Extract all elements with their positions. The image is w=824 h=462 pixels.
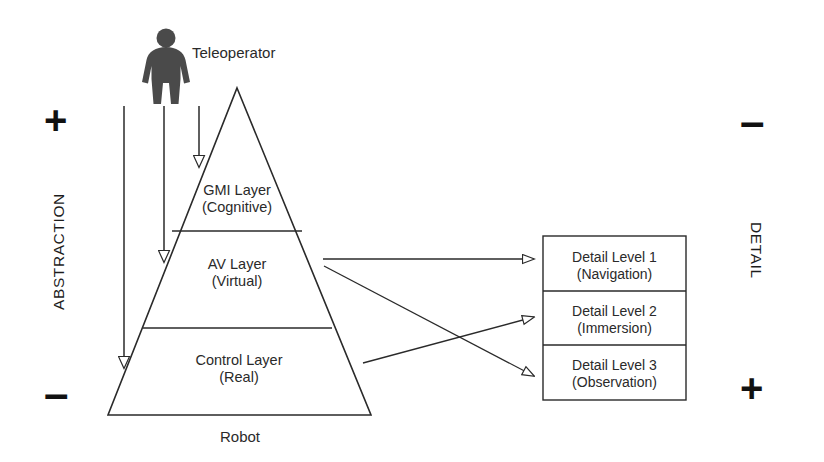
detail-level-2-cell: Detail Level 2 (Immersion): [544, 303, 685, 336]
detail-level-1-cell: Detail Level 1 (Navigation): [544, 249, 685, 282]
detail-level-3-cell: Detail Level 3 (Observation): [544, 357, 685, 390]
abstraction-axis-label: ABSTRACTION: [50, 193, 68, 310]
pyramid-layer-gmi-name: GMI Layer: [177, 182, 297, 199]
teleoperator-figure-icon: [142, 29, 190, 105]
detail-axis-plus-sign: +: [740, 368, 763, 408]
pyramid-layer-av-qualifier: (Virtual): [177, 273, 297, 290]
pyramid-layer-gmi: GMI Layer (Cognitive): [177, 182, 297, 216]
pyramid-layer-av: AV Layer (Virtual): [177, 256, 297, 290]
pyramid-layer-av-name: AV Layer: [177, 256, 297, 273]
detail-level-1-name: Detail Level 1: [544, 249, 685, 266]
arrow-av-layer-to-detail-level-3: [324, 266, 534, 376]
pyramid-layer-gmi-qualifier: (Cognitive): [177, 199, 297, 216]
diagram-vector-layer: [0, 0, 824, 462]
pyramid-layer-control-qualifier: (Real): [172, 369, 306, 386]
detail-axis-label: DETAIL: [747, 222, 765, 279]
pyramid-layer-control: Control Layer (Real): [172, 352, 306, 386]
detail-level-1-qualifier: (Navigation): [544, 266, 685, 283]
detail-level-3-name: Detail Level 3: [544, 357, 685, 374]
detail-level-3-qualifier: (Observation): [544, 374, 685, 391]
detail-mapping-arrows: [323, 259, 534, 376]
detail-axis-minus-sign: –: [740, 100, 764, 144]
arrow-control-layer-to-detail-level-2: [363, 317, 534, 363]
diagram-canvas: Teleoperator Robot GMI Layer (Cognitive)…: [0, 0, 824, 462]
detail-level-2-name: Detail Level 2: [544, 303, 685, 320]
abstraction-axis-plus-sign: +: [44, 100, 67, 140]
detail-level-2-qualifier: (Immersion): [544, 320, 685, 337]
robot-label: Robot: [205, 428, 275, 446]
teleoperator-label: Teleoperator: [192, 44, 275, 62]
pyramid-layer-control-name: Control Layer: [172, 352, 306, 369]
abstraction-axis-minus-sign: –: [44, 372, 68, 416]
